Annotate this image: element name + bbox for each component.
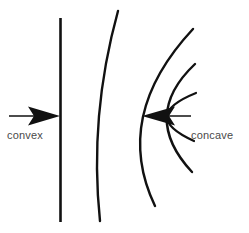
arrow-convex [9,107,60,126]
arc-1-outermost [97,11,118,221]
arrow-concave [142,107,191,126]
diagram-canvas [0,0,249,233]
arc-3 [167,64,195,172]
wavefront-diagram: convex concave [0,0,249,233]
label-convex: convex [7,129,43,141]
label-concave: concave [191,129,233,141]
